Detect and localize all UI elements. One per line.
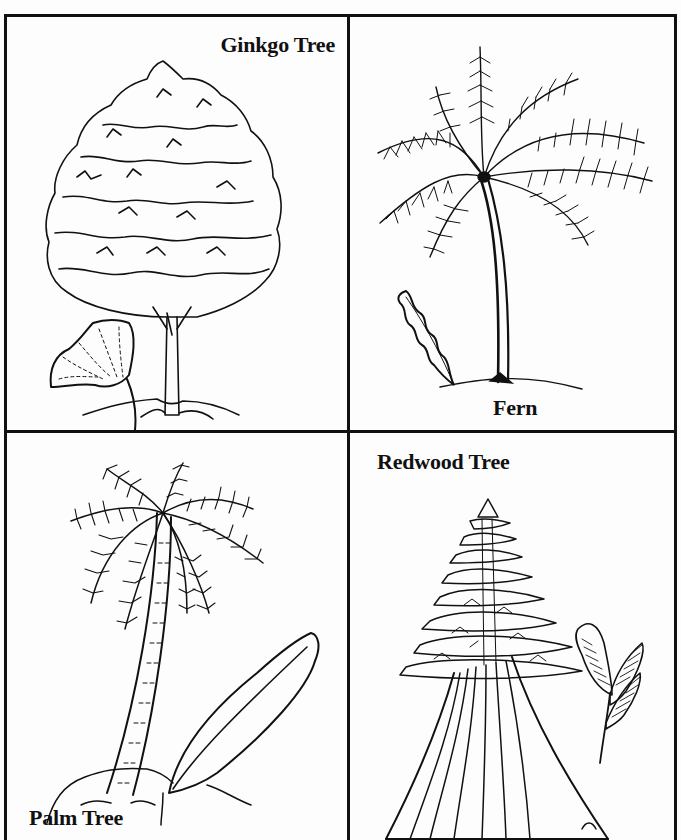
- worksheet-page: Ginkgo Tree: [0, 0, 681, 840]
- outer-border-right: [674, 14, 677, 840]
- panel-fern: Fern: [350, 17, 674, 430]
- panel-redwood: Redwood Tree: [350, 433, 674, 840]
- panel-title-palm: Palm Tree: [29, 805, 123, 831]
- redwood-tree-illustration: [350, 433, 674, 840]
- panel-palm: Palm Tree: [7, 433, 347, 840]
- panel-ginkgo: Ginkgo Tree: [7, 17, 347, 430]
- ginkgo-tree-illustration: [7, 17, 347, 430]
- panel-title-fern: Fern: [493, 395, 537, 421]
- tree-grid: Ginkgo Tree: [4, 14, 677, 840]
- palm-tree-illustration: [7, 433, 347, 840]
- fern-tree-illustration: [350, 17, 674, 430]
